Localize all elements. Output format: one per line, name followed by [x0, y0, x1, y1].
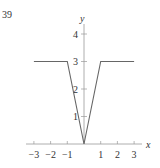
y-axis-label: y [79, 13, 85, 24]
x-tick-label: 3 [132, 149, 137, 160]
x-tick-label: 1 [98, 149, 103, 160]
y-tick-label: 4 [73, 29, 78, 40]
figure: 39 −3−2−11231234 x y [0, 0, 160, 168]
x-tick-label: −1 [62, 149, 73, 160]
x-tick-label: −3 [29, 149, 40, 160]
x-tick-label: −2 [45, 149, 56, 160]
x-tick-label: 2 [115, 149, 120, 160]
chart-plot: −3−2−11231234 x y [0, 0, 160, 168]
x-axis-label: x [145, 139, 151, 150]
tick-labels: −3−2−11231234 [29, 29, 137, 161]
y-tick-label: 3 [73, 56, 78, 67]
problem-number: 39 [2, 9, 12, 20]
axes [26, 24, 142, 144]
